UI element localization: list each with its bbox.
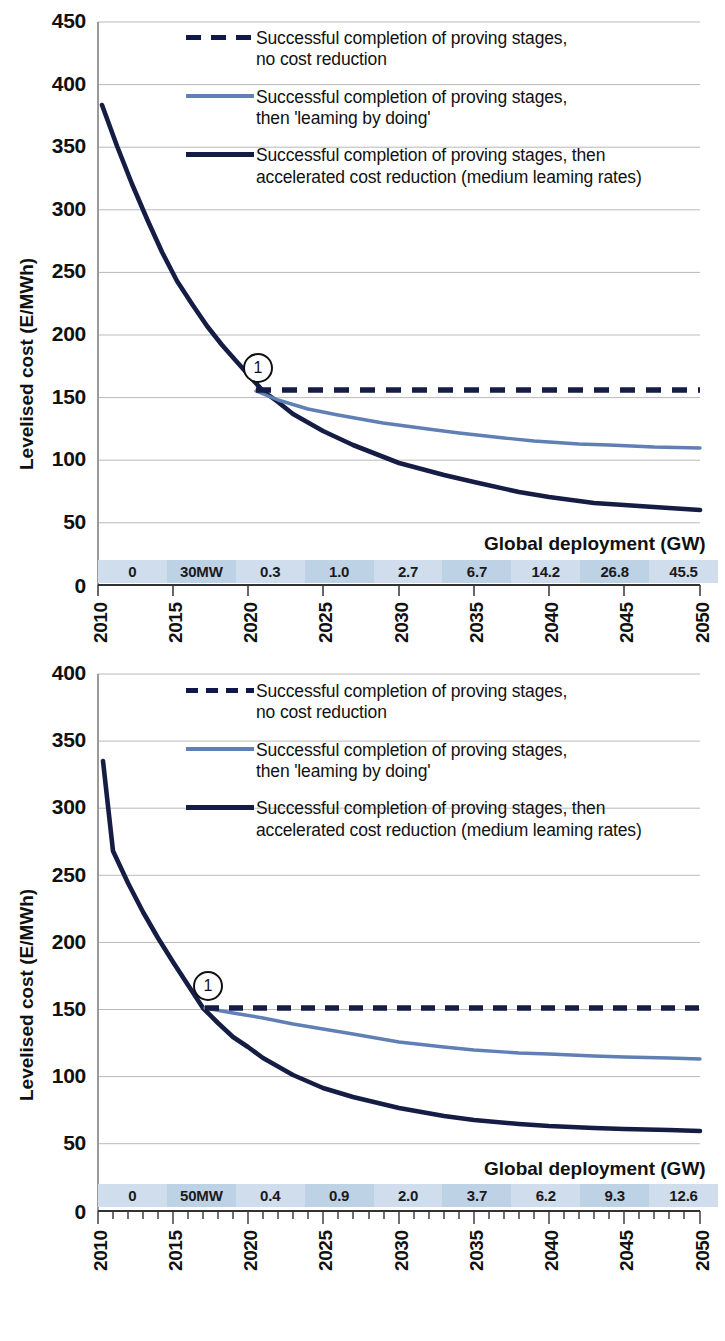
deployment-cell: 3.7: [442, 1184, 511, 1207]
legend-item-accelerated-cost-reduction[interactable]: Successful completion of proving stages,…: [186, 798, 716, 841]
x-tick: 2050: [692, 1230, 714, 1271]
x-tick: 2040: [541, 602, 563, 643]
deployment-band-lower: 0 50MW 0.4 0.9 2.0 3.7 6.2 9.3 12.6: [98, 1184, 718, 1207]
deployment-cell: 1.0: [305, 560, 374, 583]
x-tick: 2020: [240, 1230, 262, 1271]
deployment-title-upper: Global deployment (GW): [484, 533, 706, 555]
x-tick: 2030: [391, 602, 413, 643]
y-tick: 450: [52, 10, 86, 31]
deployment-cell: 0.9: [305, 1184, 374, 1207]
legend-swatch-light-line-icon: [186, 740, 254, 758]
x-tick: 2050: [692, 602, 714, 643]
x-tick: 2040: [541, 1230, 563, 1271]
y-tick: 350: [52, 729, 86, 750]
legend-item-no-cost-reduction[interactable]: Successful completion of proving stages,…: [186, 681, 716, 724]
legend-label: Successful completion of proving stages,…: [256, 145, 642, 188]
y-tick: 50: [63, 511, 86, 532]
y-tick: 0: [75, 1201, 86, 1222]
legend-swatch-dark-line-icon: [186, 798, 254, 816]
legend-swatch-light-line-icon: [186, 87, 254, 105]
legend-label: Successful completion of proving stages,…: [256, 798, 642, 841]
x-tick: 2030: [391, 1230, 413, 1271]
y-tick: 250: [52, 260, 86, 281]
y-tick: 200: [52, 931, 86, 952]
chart-upper: 450 400 350 300 250 200 150 100 50 0 Lev…: [0, 0, 725, 650]
chart-lower: 400 350 300 250 200 150 100 50 0 Levelis…: [0, 651, 725, 1341]
x-tick: 2045: [616, 1230, 638, 1271]
legend-label: Successful completion of proving stages,…: [256, 87, 567, 130]
y-tick: 200: [52, 323, 86, 344]
legend-item-no-cost-reduction[interactable]: Successful completion of proving stages,…: [186, 28, 716, 71]
deployment-cell: 6.2: [511, 1184, 580, 1207]
deployment-cell: 12.6: [649, 1184, 718, 1207]
series-learning-by-doing-lower: [205, 1008, 700, 1059]
deployment-cell: 50MW: [167, 1184, 236, 1207]
x-tick: 2035: [466, 1230, 488, 1271]
y-tick: 100: [52, 448, 86, 469]
legend-swatch-dark-line-icon: [186, 145, 254, 163]
deployment-cell: 2.0: [374, 1184, 443, 1207]
callout-branch-point-lower: 1: [193, 971, 223, 1001]
legend-lower: Successful completion of proving stages,…: [186, 681, 716, 850]
x-tick: 2035: [466, 602, 488, 643]
deployment-cell: 30MW: [167, 560, 236, 583]
y-axis-title-lower: Levelised cost (E/MWh): [16, 889, 38, 1101]
legend-label: Successful completion of proving stages,…: [256, 681, 567, 724]
series-learning-by-doing-upper: [256, 391, 700, 448]
legend-swatch-dashed-icon: [186, 681, 254, 699]
x-tick: 2010: [90, 1230, 112, 1271]
legend-label: Successful completion of proving stages,…: [256, 28, 567, 71]
deployment-title-lower: Global deployment (GW): [484, 1158, 706, 1180]
legend-swatch-dashed-icon: [186, 28, 254, 46]
y-tick: 250: [52, 864, 86, 885]
x-tick: 2025: [315, 1230, 337, 1271]
y-tick: 350: [52, 135, 86, 156]
x-axis-ticks-lower: [98, 1211, 700, 1224]
deployment-cell: 0.3: [236, 560, 305, 583]
x-axis-ticks-upper: [98, 585, 700, 596]
deployment-cell: 0.4: [236, 1184, 305, 1207]
legend-item-learning-by-doing[interactable]: Successful completion of proving stages,…: [186, 87, 716, 130]
deployment-cell: 26.8: [580, 560, 649, 583]
legend-item-learning-by-doing[interactable]: Successful completion of proving stages,…: [186, 740, 716, 783]
deployment-cell: 0: [98, 1184, 167, 1207]
deployment-cell: 0: [98, 560, 167, 583]
deployment-cell: 45.5: [649, 560, 718, 583]
y-tick: 150: [52, 386, 86, 407]
deployment-cell: 14.2: [511, 560, 580, 583]
deployment-cell: 6.7: [442, 560, 511, 583]
y-tick: 400: [52, 73, 86, 94]
y-axis-title-upper: Levelised cost (E/MWh): [16, 258, 38, 470]
y-tick: 150: [52, 998, 86, 1019]
x-tick: 2010: [90, 602, 112, 643]
callout-branch-point-upper: 1: [243, 353, 273, 383]
deployment-cell: 2.7: [374, 560, 443, 583]
y-tick: 100: [52, 1065, 86, 1086]
deployment-cell: 9.3: [580, 1184, 649, 1207]
y-tick: 400: [52, 662, 86, 683]
x-tick: 2020: [240, 602, 262, 643]
x-tick: 2015: [165, 602, 187, 643]
y-tick: 300: [52, 796, 86, 817]
legend-upper: Successful completion of proving stages,…: [186, 28, 716, 197]
deployment-band-upper: 0 30MW 0.3 1.0 2.7 6.7 14.2 26.8 45.5: [98, 560, 718, 583]
legend-label: Successful completion of proving stages,…: [256, 740, 567, 783]
x-tick: 2045: [616, 602, 638, 643]
x-tick: 2025: [315, 602, 337, 643]
y-tick: 0: [75, 575, 86, 596]
legend-item-accelerated-cost-reduction[interactable]: Successful completion of proving stages,…: [186, 145, 716, 188]
y-tick: 50: [63, 1132, 86, 1153]
x-tick: 2015: [165, 1230, 187, 1271]
y-tick: 300: [52, 198, 86, 219]
